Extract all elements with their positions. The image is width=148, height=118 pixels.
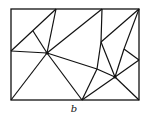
triangulation-edges (11, 9, 139, 100)
outer-rectangle (11, 9, 139, 100)
edge-P-BL (11, 53, 47, 100)
triangulation-diagram (0, 0, 148, 118)
edge-T-U (124, 49, 139, 60)
edge-P-B (47, 53, 82, 100)
edge-P-Q (47, 53, 97, 69)
figure-caption: b (0, 103, 148, 115)
edge-A-P (33, 31, 47, 53)
vertex-P (45, 51, 48, 54)
edge-U-R (115, 60, 139, 77)
edge-T-R (115, 49, 124, 77)
edge-L-P (11, 51, 47, 53)
vertex-R (113, 75, 116, 78)
edge-S-Q (97, 42, 101, 69)
edge-T2-S (101, 9, 102, 42)
edge-R-BR (115, 77, 139, 100)
